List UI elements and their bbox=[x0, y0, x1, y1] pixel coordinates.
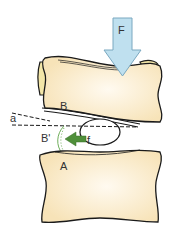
lower-vertebra bbox=[40, 150, 162, 222]
label-angle: a bbox=[10, 112, 17, 124]
diagram-canvas: F B a B' f A bbox=[0, 0, 176, 236]
label-displaced: B' bbox=[41, 132, 50, 144]
angle-line-bottom bbox=[12, 125, 138, 127]
rotation-arc-dotted bbox=[61, 128, 64, 150]
label-force: F bbox=[118, 24, 125, 36]
label-upper-vertebra: B bbox=[60, 100, 67, 112]
angle-line-top bbox=[12, 113, 50, 121]
label-lower-vertebra: A bbox=[60, 160, 68, 172]
